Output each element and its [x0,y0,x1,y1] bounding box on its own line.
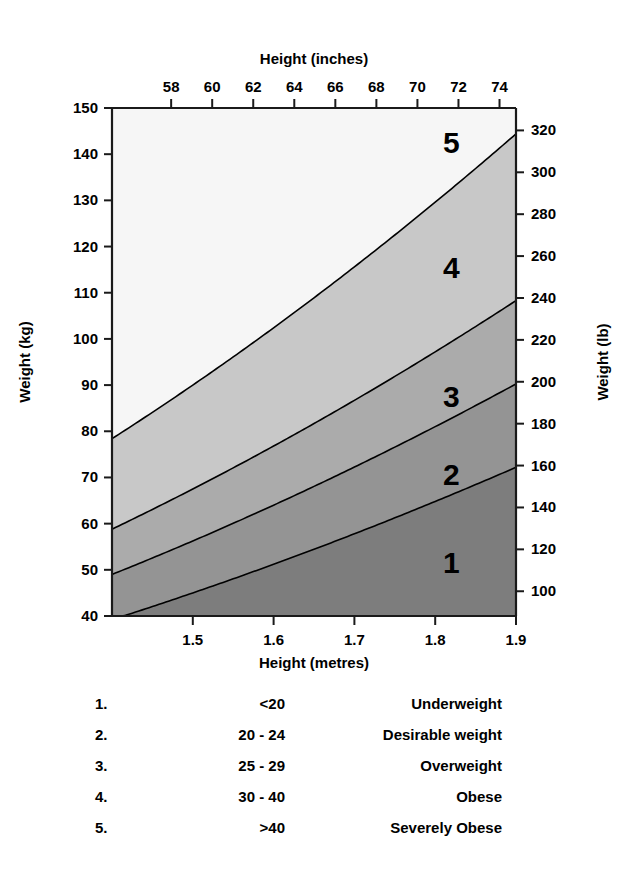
region-label-5: 5 [443,126,460,159]
legend-number: 5. [0,819,135,836]
y2-axis-tick-label: 100 [531,582,556,599]
list-item: 1. <20 Underweight [0,695,633,726]
y-axis-tick-label: 110 [74,284,98,301]
y2-axis-tick-label: 260 [531,247,556,264]
legend-number: 1. [0,695,135,712]
y-axis-title: Weight (kg) [16,321,33,402]
y2-axis-tick-label: 220 [531,331,556,348]
x2-axis-tick-label: 70 [409,78,426,95]
list-item: 3. 25 - 29 Overweight [0,757,633,788]
x2-axis-tick-label: 62 [245,78,262,95]
y2-axis-tick-label: 160 [531,457,556,474]
y2-axis-tick-label: 200 [531,373,556,390]
legend-label: Underweight [285,695,575,712]
legend-range: <20 [135,695,285,712]
legend-range: >40 [135,819,285,836]
y2-axis-tick-label: 140 [531,498,556,515]
y2-axis-tick-label: 120 [531,540,556,557]
x-axis-tick-label: 1.7 [344,631,365,648]
y2-axis-tick-label: 280 [531,205,556,222]
x2-axis-tick-label: 64 [286,78,303,95]
y-axis-tick-label: 40 [81,607,98,624]
legend-label: Desirable weight [285,726,575,743]
x2-axis-tick-label: 72 [450,78,467,95]
x-axis-title: Height (metres) [259,654,369,671]
x-axis-tick-label: 1.6 [263,631,284,648]
y-axis-tick-label: 90 [81,376,98,393]
x-axis-tick-label: 1.8 [425,631,446,648]
y2-axis-tick-label: 320 [531,121,556,138]
bmi-chart-svg: 12345405060708090100110120130140150Weigh… [0,0,633,700]
x-axis-tick-label: 1.9 [506,631,527,648]
legend-label: Overweight [285,757,575,774]
x2-axis-tick-label: 58 [163,78,180,95]
y-axis-tick-label: 70 [81,468,98,485]
bmi-chart: 12345405060708090100110120130140150Weigh… [0,0,633,873]
legend-range: 25 - 29 [135,757,285,774]
legend-number: 3. [0,757,135,774]
legend-label: Severely Obese [285,819,575,836]
region-label-2: 2 [443,458,460,491]
legend-number: 4. [0,788,135,805]
x2-axis-title: Height (inches) [260,50,368,67]
legend-label: Obese [285,788,575,805]
legend-range: 20 - 24 [135,726,285,743]
legend-range: 30 - 40 [135,788,285,805]
list-item: 2. 20 - 24 Desirable weight [0,726,633,757]
y-axis-tick-label: 100 [73,330,98,347]
list-item: 5. >40 Severely Obese [0,819,633,850]
list-item: 4. 30 - 40 Obese [0,788,633,819]
legend-number: 2. [0,726,135,743]
region-label-1: 1 [443,546,460,579]
y2-axis-tick-label: 300 [531,163,556,180]
y-axis-tick-label: 50 [81,561,98,578]
y-axis-tick-label: 150 [73,99,98,116]
y-axis-tick-label: 80 [81,422,98,439]
x2-axis-tick-label: 74 [491,78,508,95]
x2-axis-tick-label: 68 [368,78,385,95]
x2-axis-tick-label: 60 [204,78,221,95]
region-label-3: 3 [443,380,460,413]
y-axis-tick-label: 60 [81,515,98,532]
region-label-4: 4 [443,251,460,284]
x2-axis-tick-label: 66 [327,78,344,95]
y2-axis-title: Weight (lb) [594,323,611,400]
y-axis-tick-label: 130 [73,191,98,208]
y2-axis-tick-label: 240 [531,289,556,306]
x-axis-tick-label: 1.5 [182,631,203,648]
y-axis-tick-label: 140 [73,145,98,162]
y2-axis-tick-label: 180 [531,415,556,432]
bmi-legend: 1. <20 Underweight 2. 20 - 24 Desirable … [0,695,633,850]
y-axis-tick-label: 120 [73,238,98,255]
